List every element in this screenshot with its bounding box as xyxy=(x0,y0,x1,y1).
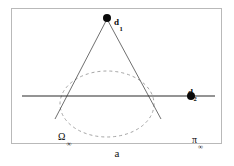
figure-container: d1 d2 Ω∞ π∞ a xyxy=(0,0,234,166)
point-d1-label-subscript: 1 xyxy=(120,25,123,32)
point-d2-label-subscript: 2 xyxy=(194,95,197,102)
figure-caption: a xyxy=(0,148,234,159)
point-d2-label-base: d xyxy=(188,87,193,97)
omega-infinity-label-base: Ω xyxy=(58,131,65,142)
point-d1-dot xyxy=(103,14,111,22)
omega-infinity-label-subscript: ∞ xyxy=(66,140,71,148)
pi-infinity-label-base: π xyxy=(192,134,197,145)
pi-infinity-label: π∞ xyxy=(192,130,202,149)
point-d1-label-base: d xyxy=(114,17,119,27)
omega-infinity-label: Ω∞ xyxy=(58,127,70,146)
point-d2-label: d2 xyxy=(188,82,196,101)
point-d1-label: d1 xyxy=(114,12,122,31)
